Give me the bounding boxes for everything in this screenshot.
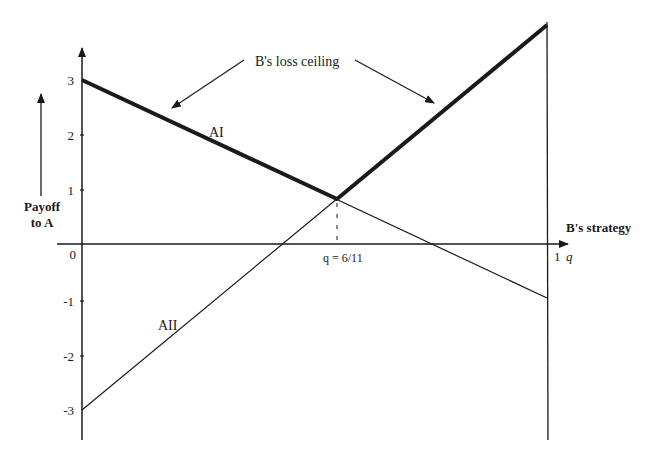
aii-label: AII bbox=[158, 318, 178, 333]
payoff-label-line1: Payoff bbox=[24, 199, 61, 214]
q-one-vertical bbox=[547, 22, 548, 440]
y-tick-1: 1 bbox=[68, 183, 75, 198]
y-tick-3: 3 bbox=[68, 73, 75, 88]
payoff-chart: B's loss ceiling AI AII Payoff to A B's … bbox=[0, 0, 662, 454]
x-tick-1: 1 bbox=[554, 249, 561, 264]
y-tick-2: 2 bbox=[68, 128, 75, 143]
ai-label: AI bbox=[209, 125, 224, 140]
loss-ceiling-envelope bbox=[82, 25, 547, 199]
y-tick-m3: -3 bbox=[63, 403, 74, 418]
y-tick-labels: 3 2 1 0 -1 -2 -3 bbox=[63, 73, 76, 418]
loss-ceiling-arrow-right bbox=[355, 60, 434, 103]
loss-ceiling-arrow-left bbox=[172, 60, 244, 108]
y-tick-m2: -2 bbox=[63, 349, 74, 364]
x-variable-q: q bbox=[566, 249, 573, 264]
y-tick-m1: -1 bbox=[63, 294, 74, 309]
loss-ceiling-label: B's loss ceiling bbox=[255, 54, 339, 69]
payoff-label-line2: to A bbox=[31, 215, 54, 230]
y-tick-0: 0 bbox=[70, 247, 77, 262]
q-star-label: q = 6/11 bbox=[323, 251, 363, 265]
x-axis-title: B's strategy bbox=[566, 220, 632, 235]
